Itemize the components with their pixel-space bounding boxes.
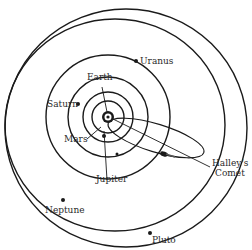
halley-orbit [104, 110, 208, 166]
uranus-label: Uranus [140, 56, 173, 66]
uranus-dot [134, 59, 138, 63]
comet-label-line2: Comet [215, 168, 245, 178]
orbit-drawing [0, 0, 252, 250]
neptune-label: Neptune [45, 205, 85, 215]
solar-system-diagram: Earth Saturn Uranus Mars Jupiter Neptune… [0, 0, 252, 250]
mars-label: Mars [64, 134, 88, 144]
jupiter-leader [104, 131, 107, 180]
comet-icon [159, 150, 175, 157]
jupiter-dot [116, 153, 119, 156]
saturn-label: Saturn [47, 99, 78, 109]
earth-leader [102, 87, 107, 112]
neptune-orbit [5, 19, 225, 231]
pluto-orbit [5, 9, 247, 247]
neptune-dot [61, 198, 65, 202]
earth-label: Earth [87, 72, 113, 82]
comet-leader [113, 119, 210, 167]
comet-label-line1: Halley's [212, 158, 248, 168]
mars-dot [102, 134, 106, 138]
jupiter-label: Jupiter [96, 174, 127, 184]
pluto-label: Pluto [152, 235, 176, 245]
